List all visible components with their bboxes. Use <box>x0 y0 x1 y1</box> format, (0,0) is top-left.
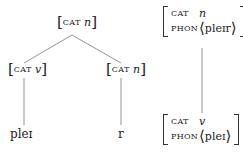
avm-top: CATn PHON⟨pleɪr⟩ <box>163 6 243 37</box>
avm-bottom: CATv PHON⟨pleɪ⟩ <box>163 114 239 145</box>
root-node: [ CAT n ] <box>57 15 97 30</box>
right-child-node: [ CAT n ] <box>106 62 146 77</box>
leaf-play: pleɪ <box>10 127 32 141</box>
leaf-r: r <box>118 127 124 141</box>
left-child-node: [ CAT v ] <box>8 62 47 77</box>
